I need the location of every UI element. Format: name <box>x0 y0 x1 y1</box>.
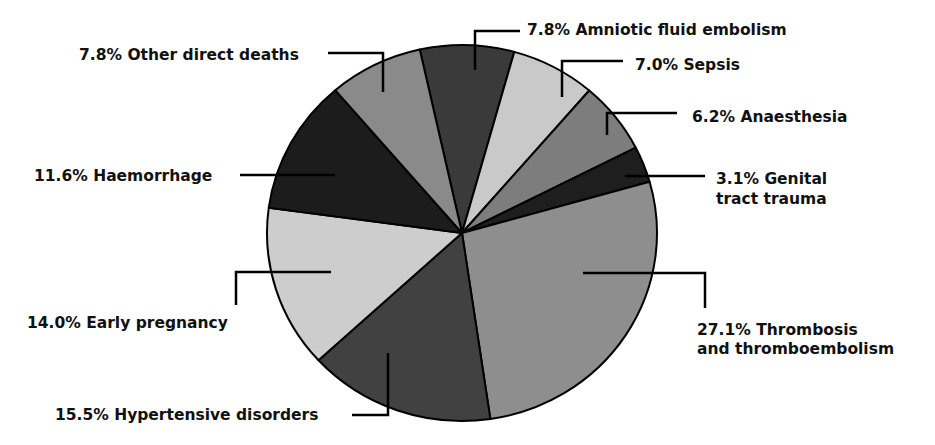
label-genital-tract-trauma-line2: tract trauma <box>716 190 827 208</box>
pie-chart: 7.8% Amniotic fluid embolism 7.0% Sepsis… <box>0 0 935 445</box>
label-genital-tract-trauma: 3.1% Genital <box>716 170 827 188</box>
pie-slices <box>267 45 657 421</box>
label-early-pregnancy: 14.0% Early pregnancy <box>27 314 228 332</box>
label-other-direct-deaths: 7.8% Other direct deaths <box>79 46 299 64</box>
label-sepsis: 7.0% Sepsis <box>635 56 740 74</box>
label-hypertensive-disorders: 15.5% Hypertensive disorders <box>55 406 318 424</box>
label-amniotic-fluid-embolism: 7.8% Amniotic fluid embolism <box>527 21 787 39</box>
label-thrombosis-line2: and thromboembolism <box>697 340 894 358</box>
label-anaesthesia: 6.2% Anaesthesia <box>692 108 848 126</box>
label-haemorrhage: 11.6% Haemorrhage <box>34 167 212 185</box>
label-thrombosis: 27.1% Thrombosis <box>697 321 858 339</box>
